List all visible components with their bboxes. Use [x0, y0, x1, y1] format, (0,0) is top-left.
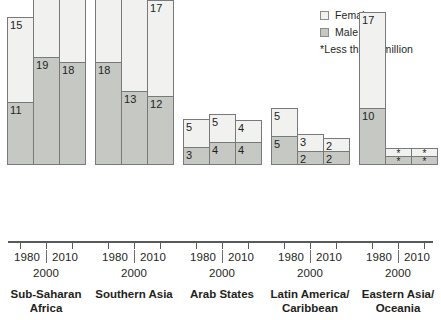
segment-female: 17 — [359, 12, 386, 109]
segment-male: * — [411, 156, 438, 165]
year-label-2010: 2010 — [311, 250, 348, 264]
year-label-2010: 2010 — [399, 250, 436, 264]
year-label-1980: 1980 — [185, 250, 222, 264]
plot-area: 15 11 24 19 24 18 — [0, 0, 441, 243]
segment-value: 5 — [212, 116, 218, 128]
group-label-line2: Caribbean — [268, 301, 352, 315]
segment-value: 15 — [10, 19, 23, 31]
segment-male: 18 — [59, 62, 86, 165]
bar-1980: 15 11 — [8, 17, 34, 164]
segment-value: 5 — [186, 121, 192, 133]
year-label-1980: 1980 — [9, 250, 46, 264]
segment-male: 2 — [323, 151, 350, 165]
segment-value: 18 — [98, 64, 111, 76]
bar-group-latin-america-caribbean: 5 5 3 2 2 2 — [272, 108, 350, 164]
segment-value: 4 — [238, 122, 244, 134]
bar-2000: 24 19 — [34, 0, 60, 164]
group-label-line2: Oceania — [356, 301, 440, 315]
year-row: 1980 2010 — [92, 250, 176, 265]
tick-mark — [160, 242, 161, 249]
tick-mark — [424, 242, 425, 249]
segment-female: 24 — [59, 0, 86, 63]
segment-male: 18 — [95, 62, 122, 165]
group-label-line1: Arab States — [180, 287, 264, 301]
segment-male: 2 — [297, 151, 324, 165]
bar-1980: 30 18 — [96, 0, 122, 164]
year-label-2010: 2010 — [135, 250, 172, 264]
year-row: 1980 2010 — [268, 250, 352, 265]
group-label-line1: Latin America/ — [268, 287, 352, 301]
year-label-2010: 2010 — [223, 250, 260, 264]
bar-2010: 17 12 — [148, 0, 174, 164]
segment-female: 3 — [297, 134, 324, 152]
bar-group-sub-saharan-africa: 15 11 24 19 24 18 — [8, 0, 86, 164]
year-label-1980: 1980 — [361, 250, 398, 264]
segment-female: 22 — [121, 0, 148, 92]
segment-value: 3 — [186, 149, 192, 161]
segment-value: 2 — [326, 153, 332, 165]
segment-value: 2 — [300, 153, 306, 165]
year-row: 1980 2010 — [4, 250, 88, 265]
group-label-line2: Africa — [4, 301, 88, 315]
segment-male: 13 — [121, 91, 148, 165]
segment-value: 5 — [274, 110, 280, 122]
tick-mark — [134, 242, 135, 249]
segment-male: * — [385, 156, 412, 165]
xaxis-labels-eastern-asia-oceania: 1980 2010 2000 Eastern Asia/ Oceania — [356, 250, 440, 316]
segment-value: 17 — [362, 14, 375, 26]
segment-value: 17 — [150, 2, 163, 14]
segment-male: 11 — [7, 102, 34, 165]
tick-mark — [222, 242, 223, 249]
xaxis-labels-arab-states: 1980 2010 2000 Arab States — [180, 250, 264, 316]
bar-1980: 17 10 — [360, 12, 386, 164]
segment-value: 19 — [36, 59, 49, 71]
segment-value: 10 — [362, 110, 375, 122]
segment-male: 19 — [33, 57, 60, 165]
year-label-2000: 2000 — [180, 266, 264, 280]
tick-mark — [310, 242, 311, 249]
tick-mark — [336, 242, 337, 249]
segment-female: 5 — [183, 119, 210, 148]
segment-value: 18 — [62, 64, 75, 76]
year-row: 1980 2010 — [356, 250, 440, 265]
tick-mark — [20, 242, 21, 249]
tick-mark — [398, 242, 399, 249]
year-label-2000: 2000 — [92, 266, 176, 280]
year-label-1980: 1980 — [273, 250, 310, 264]
group-label-line1: Southern Asia — [92, 287, 176, 301]
tick-mark — [372, 242, 373, 249]
tick-mark — [46, 242, 47, 249]
bar-group-southern-asia: 30 18 22 13 17 12 — [96, 0, 174, 164]
segment-male: 4 — [209, 142, 236, 165]
segment-male: 3 — [183, 147, 210, 165]
tick-mark — [72, 242, 73, 249]
segment-female: 5 — [271, 108, 298, 137]
segment-value: * — [386, 156, 411, 167]
tick-mark — [248, 242, 249, 249]
bar-2000: 22 13 — [122, 0, 148, 164]
bar-2010: * * — [412, 148, 438, 164]
xaxis-labels-southern-asia: 1980 2010 2000 Southern Asia — [92, 250, 176, 316]
segment-male: 10 — [359, 108, 386, 165]
group-label-line1: Eastern Asia/ — [356, 287, 440, 301]
tick-mark — [196, 242, 197, 249]
segment-female: 4 — [235, 120, 262, 143]
segment-value: 13 — [124, 93, 137, 105]
segment-value: 5 — [274, 138, 280, 150]
segment-value: 11 — [10, 104, 22, 116]
segment-male: 5 — [271, 136, 298, 165]
segment-female: 17 — [147, 0, 174, 97]
year-label-2000: 2000 — [356, 266, 440, 280]
segment-value: 4 — [212, 144, 218, 156]
bar-2010: 24 18 — [60, 0, 86, 164]
bar-2000: 5 4 — [210, 114, 236, 164]
segment-male: 4 — [235, 142, 262, 165]
bar-1980: 5 5 — [272, 108, 298, 164]
xaxis-labels-sub-saharan-africa: 1980 2010 2000 Sub-Saharan Africa — [4, 250, 88, 316]
tick-mark — [284, 242, 285, 249]
segment-female: 30 — [95, 0, 122, 63]
bar-2010: 4 4 — [236, 120, 262, 164]
segment-female: 24 — [33, 0, 60, 58]
bar-group-eastern-asia-oceania: 17 10 * * * * — [360, 12, 438, 164]
stacked-bar-chart: Female Male *Less than 1 million 15 11 2… — [0, 0, 441, 320]
